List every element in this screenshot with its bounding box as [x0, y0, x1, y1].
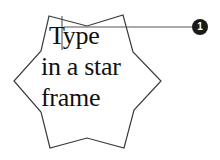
callout-badge: 1	[192, 19, 208, 35]
text-line-2: in a star	[41, 51, 121, 82]
text-line-3: frame	[41, 82, 121, 113]
star-frame-text[interactable]: Type in a star frame	[41, 20, 121, 113]
illustration: Type in a star frame 1	[0, 0, 220, 160]
text-line-1: Type	[41, 20, 121, 51]
